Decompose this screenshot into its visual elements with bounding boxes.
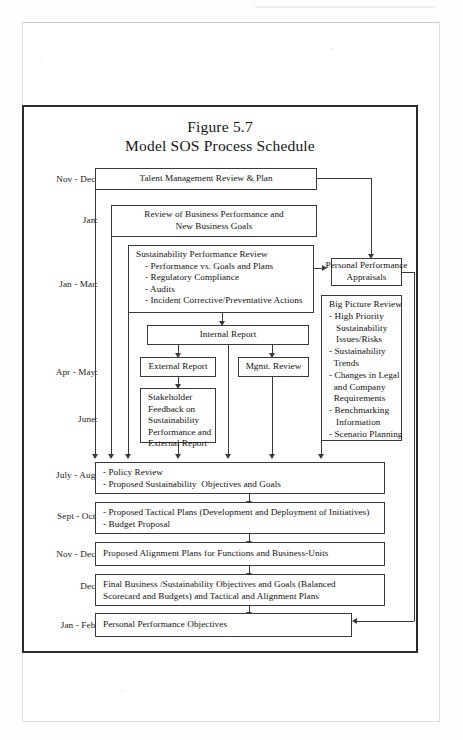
box-final-business-objectives[interactable]: Final Business /Sustainability Objective… [95,574,385,606]
period-label-sept-oct: Sept - Oct: [26,511,98,521]
box-appraisals-line1: Personal Performance [326,260,408,272]
connector-talent-drop [95,190,96,455]
box-big-picture-heading: Big Picture Review [329,299,396,311]
connector-talent-to-appraisals-h [317,178,371,179]
box-tactical-item-0: - Proposed Tactical Plans (Development a… [103,507,379,519]
box-big-picture-item-1: Sustainability [329,323,396,335]
figure-title: Model SOS Process Schedule [22,136,418,155]
box-sustainability-item-1: - Regulatory Compliance [136,272,308,284]
arrow-stakeholder-drop [175,454,181,459]
box-mgmt-review-label: Mgmt. Review [246,361,302,373]
box-policy-review[interactable]: - Policy Review - Proposed Sustainabilit… [95,462,385,494]
box-stakeholder-item-0: Stakeholder [148,392,210,404]
box-big-picture-item-5: - Changes in Legal [329,370,396,382]
box-personal-objectives-label: Personal Performance Objectives [103,619,227,631]
box-sustainability-item-0: - Performance vs. Goals and Plans [136,261,308,273]
box-external-report[interactable]: External Report [140,357,216,377]
box-stakeholder-feedback[interactable]: Stakeholder Feedback on Sustainability P… [140,388,216,443]
box-internal-report-label: Internal Report [200,329,257,341]
scan-speck [40,60,43,62]
box-policy-item-1: - Proposed Sustainability Objectives and… [103,479,379,491]
box-final-business-line2: Scorecard and Budgets) and Tactical and … [103,591,379,603]
arrow-mgmt-drop [269,454,275,459]
connector-mgmt-drop [272,377,273,455]
connector-business-review-drop [111,237,112,455]
arrow-business-review-drop [108,454,114,459]
box-business-review[interactable]: Review of Business Performance and New B… [111,205,317,237]
connector-talent-to-appraisals-v [371,178,372,255]
period-label-july-aug: July - Aug: [26,470,98,480]
arrow-sustainability-drop [125,454,131,459]
box-alignment-plans[interactable]: Proposed Alignment Plans for Functions a… [95,542,385,566]
period-label-june: June: [26,414,98,424]
box-stakeholder-item-2: Sustainability [148,415,210,427]
box-stakeholder-item-1: Feedback on [148,404,210,416]
box-appraisals-line2: Appraisals [347,272,387,284]
box-big-picture-item-10: - Scenario Planning [329,429,396,441]
connector-bigpicture-drop [321,441,322,455]
box-big-picture-item-6: and Company [329,382,396,394]
connector-internal-drop [228,345,229,455]
box-business-review-line2: New Business Goals [176,221,253,233]
box-policy-item-0: - Policy Review [103,467,379,479]
scan-speck [330,48,334,50]
page-top-rule [255,6,435,8]
box-mgmt-review[interactable]: Mgmt. Review [238,357,309,377]
box-big-picture-item-4: Trends [329,358,396,370]
box-personal-performance-appraisals[interactable]: Personal Performance Appraisals [331,258,402,286]
box-big-picture-item-3: - Sustainability [329,346,396,358]
box-talent-management-review[interactable]: Talent Management Review & Plan [95,168,317,190]
figure-number: Figure 5.7 [22,117,418,136]
box-internal-report[interactable]: Internal Report [147,325,309,345]
box-sustainability-performance-review[interactable]: Sustainability Performance Review - Perf… [128,245,314,313]
arrow-bigpicture-drop [318,454,324,459]
box-big-picture-item-0: - High Priority [329,311,396,323]
box-big-picture-item-8: - Benchmarking [329,405,396,417]
box-personal-performance-objectives[interactable]: Personal Performance Objectives [95,613,352,637]
box-big-picture-item-2: Issues/Risks [329,334,396,346]
box-big-picture-item-7: Requirements [329,393,396,405]
connector-sustainability-drop [128,313,129,455]
box-sustainability-item-3: - Incident Corrective/Preventative Actio… [136,295,308,307]
connector-appraisals-down [414,272,415,621]
box-big-picture-review[interactable]: Big Picture Review - High Priority Susta… [321,295,402,441]
box-external-report-label: External Report [148,361,207,373]
figure-title-block: Figure 5.7 Model SOS Process Schedule [22,117,418,155]
box-sustainability-item-2: - Audits [136,284,308,296]
period-label-nov-dec-2: Nov - Dec: [26,549,98,559]
box-big-picture-item-9: Information [329,417,396,429]
arrow-into-personal-objectives [352,618,357,624]
connector-appraisals-out-h [402,272,414,273]
box-business-review-line1: Review of Business Performance and [144,209,283,221]
connector-into-personal-objectives-h [357,621,414,622]
period-label-apr-may: Apr - May: [26,367,98,377]
box-tactical-item-1: - Budget Proposal [103,519,379,531]
box-talent-management-label: Talent Management Review & Plan [139,173,272,185]
box-alignment-plans-label: Proposed Alignment Plans for Functions a… [103,548,328,560]
period-label-jan-mar: Jan - Mar: [26,279,98,289]
arrow-talent-drop [92,454,98,459]
box-tactical-plans[interactable]: - Proposed Tactical Plans (Development a… [95,502,385,534]
period-label-nov-dec-1: Nov - Dec: [26,174,98,184]
scan-speck [120,690,125,692]
arrow-internal-drop [225,454,231,459]
box-stakeholder-item-4: External Report [148,438,210,450]
box-stakeholder-item-3: Performance and [148,427,210,439]
period-label-jan: Jan: [26,215,98,225]
box-sustainability-heading: Sustainability Performance Review [136,249,308,261]
box-final-business-line1: Final Business /Sustainability Objective… [103,579,379,591]
period-label-dec: Dec: [26,581,98,591]
period-label-jan-feb: Jan - Feb: [26,620,98,630]
